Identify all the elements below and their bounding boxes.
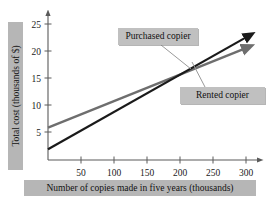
x-tick-label-300: 300	[239, 168, 254, 178]
x-axis-tick-labels: 50 100 150 200 250 300	[76, 168, 253, 178]
y-tick-label-15: 15	[32, 74, 42, 84]
x-axis-title-label: Number of copies made in five years (tho…	[46, 183, 233, 193]
x-tick-label-250: 250	[206, 168, 221, 178]
x-tick-label-200: 200	[173, 168, 188, 178]
y-tick-label-5: 5	[36, 128, 41, 138]
annotation-purchased-copier: Purchased copier	[118, 28, 198, 45]
chart-figure: 5 10 15 20 25 50 100 150 200 250 300	[0, 0, 272, 205]
y-axis-title: Total cost (thousands of $)	[8, 22, 23, 170]
y-tick-label-10: 10	[32, 101, 42, 111]
y-tick-label-20: 20	[32, 47, 42, 57]
annotation-rented-copier: Rented copier	[180, 87, 265, 104]
annotation-rented-copier-label: Rented copier	[196, 91, 249, 101]
x-axis-title: Number of copies made in five years (tho…	[24, 180, 256, 196]
y-tick-label-25: 25	[32, 20, 42, 30]
leader-line-purchased	[161, 45, 191, 69]
x-tick-label-150: 150	[140, 168, 155, 178]
y-axis-title-label: Total cost (thousands of $)	[11, 45, 21, 146]
y-axis-tick-labels: 5 10 15 20 25	[32, 20, 42, 138]
x-tick-label-50: 50	[76, 168, 86, 178]
x-tick-label-100: 100	[107, 168, 122, 178]
annotation-purchased-copier-label: Purchased copier	[125, 32, 190, 42]
